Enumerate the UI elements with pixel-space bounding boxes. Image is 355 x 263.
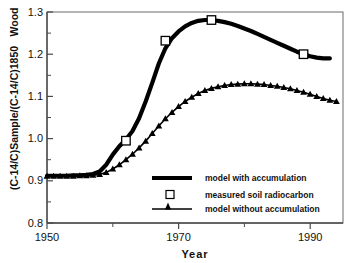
x-tick-label-0: 1950 [35,231,59,243]
legend-marker-open-square [166,191,174,199]
y-tick-label-2: 1.0 [28,132,43,144]
x-tick-label-2: 1990 [298,231,322,243]
legend-label-0: model with accumulation [205,173,307,183]
y-tick-label-1: 0.9 [28,174,43,186]
radiocarbon-line-chart: 0.8 0.9 1.0 1.1 1.2 1.3 1950 1970 1990 Y… [0,0,355,263]
chart-figure: 0.8 0.9 1.0 1.1 1.2 1.3 1950 1970 1990 Y… [0,0,355,263]
x-tick-label-1: 1970 [166,231,190,243]
legend-label-1: measured soil radiocarbon [205,190,314,200]
open-square-marker [207,16,216,25]
y-tick-label-0: 0.8 [28,217,43,229]
open-square-marker [161,36,170,45]
y-tick-label-4: 1.2 [28,48,43,60]
y-tick-label-3: 1.1 [28,90,43,102]
legend-label-2: model without accumulation [205,204,320,214]
y-axis-title-top: Wood [8,8,20,37]
y-tick-label-5: 1.3 [28,6,43,18]
x-axis-ticks [47,223,310,229]
open-square-marker [299,50,308,59]
open-square-marker [122,136,131,145]
x-axis-title: Year [181,248,208,260]
y-axis-title: (C-14/C)Sample/(C-14/C)1850 [8,46,20,190]
